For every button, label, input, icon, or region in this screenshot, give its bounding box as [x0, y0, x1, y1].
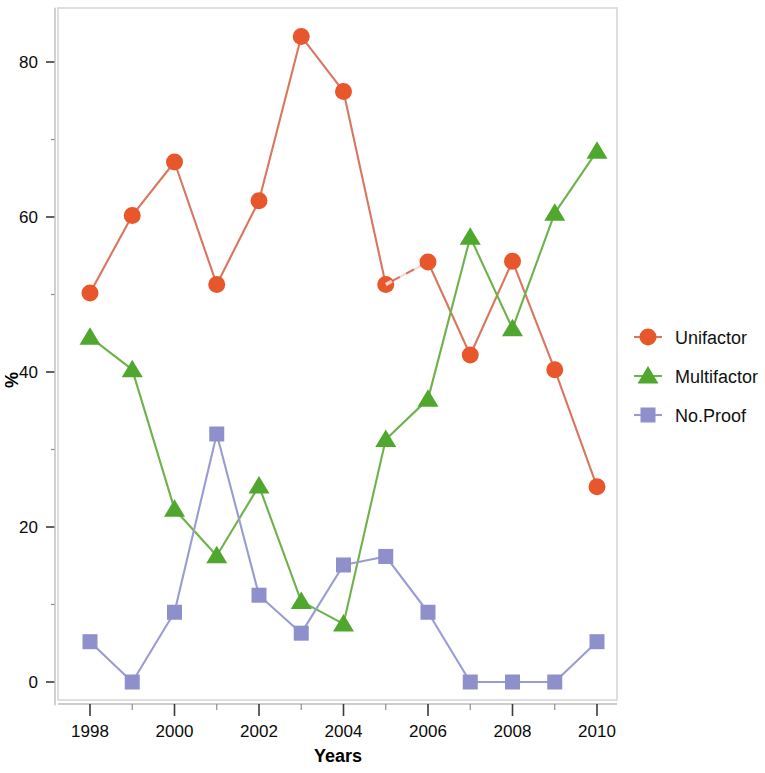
data-point-marker	[209, 427, 224, 442]
y-axis-tick-label: 0	[29, 673, 38, 692]
x-axis-tick-label: 2000	[156, 722, 194, 741]
data-point-marker	[463, 675, 478, 690]
x-axis-tick-label: 2010	[578, 722, 616, 741]
y-axis-tick-label: 60	[19, 208, 38, 227]
data-point-marker	[251, 192, 268, 209]
data-point-marker	[83, 634, 98, 649]
data-point-marker	[505, 675, 520, 690]
legend-entry-label: Unifactor	[675, 328, 747, 348]
chart-figure: 020406080 1998200020022004200620082010 U…	[0, 0, 765, 773]
data-point-marker	[421, 605, 436, 620]
data-point-marker	[335, 83, 352, 100]
x-axis-tick-label: 2004	[325, 722, 363, 741]
data-point-marker	[590, 634, 605, 649]
chart-background	[0, 0, 765, 773]
legend-entry-label: No.Proof	[675, 406, 747, 426]
chart-legend: UnifactorMultifactorNo.Proof	[634, 328, 758, 426]
x-axis-title: Years	[314, 746, 362, 766]
data-point-marker	[167, 605, 182, 620]
data-point-marker	[504, 253, 521, 270]
x-axis-tick-label: 2002	[240, 722, 278, 741]
data-point-marker	[293, 28, 310, 45]
x-axis-tick-label: 1998	[71, 722, 109, 741]
legend-entry-label: Multifactor	[675, 367, 758, 387]
x-axis-tick-label: 2008	[494, 722, 532, 741]
data-point-marker	[546, 361, 563, 378]
data-point-marker	[294, 626, 309, 641]
legend-key-marker	[640, 329, 657, 346]
y-axis-tick-label: 20	[19, 518, 38, 537]
data-point-marker	[125, 675, 140, 690]
data-point-marker	[589, 478, 606, 495]
line-chart-canvas: 020406080 1998200020022004200620082010 U…	[0, 0, 765, 773]
legend-key-marker	[641, 408, 656, 423]
data-point-marker	[82, 284, 99, 301]
data-point-marker	[124, 207, 141, 224]
data-point-marker	[166, 153, 183, 170]
data-point-marker	[336, 557, 351, 572]
y-axis-tick-label: 80	[19, 53, 38, 72]
data-point-marker	[378, 549, 393, 564]
data-point-marker	[547, 675, 562, 690]
y-axis-title: %	[2, 372, 22, 388]
data-point-marker	[252, 588, 267, 603]
data-point-marker	[462, 346, 479, 363]
data-point-marker	[208, 276, 225, 293]
x-axis-tick-label: 2006	[409, 722, 447, 741]
